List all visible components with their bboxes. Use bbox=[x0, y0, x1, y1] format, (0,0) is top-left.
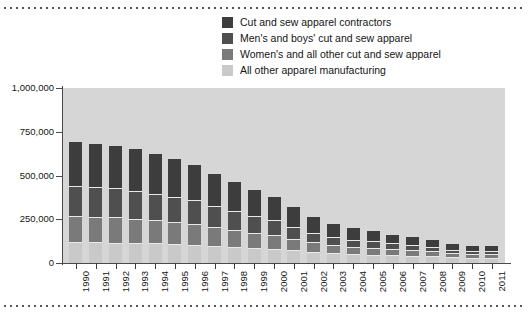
y-axis-tick-label: 250,000 bbox=[0, 213, 54, 224]
bar-segment bbox=[367, 255, 380, 263]
bar-segment bbox=[69, 242, 82, 263]
x-axis-tick-label: 2005 bbox=[377, 271, 388, 292]
bar-segment bbox=[69, 142, 82, 186]
legend-item: Cut and sew apparel contractors bbox=[222, 15, 441, 29]
x-axis-tick bbox=[76, 263, 77, 269]
bar-column bbox=[403, 88, 423, 263]
bar-segment bbox=[129, 219, 142, 244]
bar-segment bbox=[287, 207, 300, 226]
x-axis-tick bbox=[254, 263, 255, 269]
bar-column bbox=[165, 88, 185, 263]
legend-item-label: Men's and boys' cut and sew apparel bbox=[240, 32, 412, 44]
bar-segment bbox=[149, 194, 162, 221]
bar-column bbox=[86, 88, 106, 263]
bar-column bbox=[423, 88, 443, 263]
stacked-bar bbox=[188, 165, 201, 263]
y-axis-tick bbox=[56, 88, 63, 89]
x-axis-tick-label: 2009 bbox=[456, 271, 467, 292]
x-axis-tick bbox=[393, 263, 394, 269]
bar-segment bbox=[188, 200, 201, 224]
x-axis-labels: 1990199119921993199419951996199719981999… bbox=[0, 271, 529, 311]
stacked-bar bbox=[406, 237, 419, 263]
x-axis-tick bbox=[274, 263, 275, 269]
y-axis-tick-label: 1,000,000 bbox=[0, 82, 54, 93]
bar-segment bbox=[109, 188, 122, 217]
bar-segment bbox=[327, 245, 340, 253]
bar-group bbox=[63, 88, 505, 263]
bar-segment bbox=[406, 237, 419, 245]
x-axis-tick-label: 1993 bbox=[139, 271, 150, 292]
x-axis-tick bbox=[195, 263, 196, 269]
bar-segment bbox=[268, 220, 281, 235]
bar-segment bbox=[149, 154, 162, 194]
stacked-bar bbox=[367, 231, 380, 263]
x-axis-tick bbox=[472, 263, 473, 269]
bar-segment bbox=[188, 245, 201, 263]
bar-segment bbox=[208, 206, 221, 227]
bar-column bbox=[383, 88, 403, 263]
x-axis-tick-label: 2007 bbox=[417, 271, 428, 292]
bar-segment bbox=[327, 237, 340, 245]
bar-segment bbox=[208, 246, 221, 263]
bar-column bbox=[205, 88, 225, 263]
bar-segment bbox=[268, 197, 281, 220]
bar-segment bbox=[129, 243, 142, 263]
x-axis-tick-label: 1990 bbox=[80, 271, 91, 292]
bar-segment bbox=[248, 216, 261, 233]
bar-segment bbox=[149, 220, 162, 243]
stacked-bar bbox=[307, 217, 320, 263]
bar-column bbox=[482, 88, 502, 263]
x-axis-tick bbox=[96, 263, 97, 269]
bar-column bbox=[284, 88, 304, 263]
stacked-bar bbox=[69, 142, 82, 263]
bar-segment bbox=[109, 217, 122, 242]
x-axis-tick-label: 2004 bbox=[357, 271, 368, 292]
stacked-bar bbox=[287, 207, 300, 263]
bar-segment bbox=[307, 217, 320, 233]
y-axis-tick bbox=[56, 132, 63, 133]
legend-swatch-icon bbox=[222, 17, 233, 28]
stacked-bar bbox=[466, 246, 479, 263]
bar-segment bbox=[69, 186, 82, 216]
bar-segment bbox=[347, 240, 360, 247]
bar-segment bbox=[347, 254, 360, 263]
bar-segment bbox=[347, 228, 360, 239]
y-axis-tick-label: 750,000 bbox=[0, 126, 54, 137]
stacked-bar bbox=[426, 240, 439, 263]
bar-segment bbox=[149, 243, 162, 263]
x-axis-tick-label: 2001 bbox=[298, 271, 309, 292]
bar-segment bbox=[406, 256, 419, 263]
x-axis-tick-label: 1992 bbox=[120, 271, 131, 292]
bar-segment bbox=[109, 243, 122, 263]
y-axis-tick bbox=[56, 176, 63, 177]
legend-item: Women's and all other cut and sew appare… bbox=[222, 47, 441, 61]
bar-column bbox=[264, 88, 284, 263]
x-axis-tick-label: 1998 bbox=[238, 271, 249, 292]
bar-segment bbox=[168, 159, 181, 197]
bar-segment bbox=[287, 227, 300, 239]
bar-segment bbox=[69, 216, 82, 242]
bar-segment bbox=[168, 197, 181, 222]
bar-segment bbox=[347, 247, 360, 255]
x-axis-tick-label: 1999 bbox=[258, 271, 269, 292]
bar-segment bbox=[188, 165, 201, 200]
bar-segment bbox=[426, 240, 439, 247]
stacked-bar bbox=[228, 182, 241, 263]
x-axis-tick-label: 1995 bbox=[179, 271, 190, 292]
stacked-bar bbox=[248, 190, 261, 263]
bar-segment bbox=[89, 187, 102, 216]
bar-column bbox=[145, 88, 165, 263]
bar-segment bbox=[287, 239, 300, 251]
bar-column bbox=[462, 88, 482, 263]
bar-column bbox=[244, 88, 264, 263]
bar-segment bbox=[268, 235, 281, 249]
bar-segment bbox=[129, 149, 142, 190]
stacked-bar bbox=[485, 246, 498, 263]
bar-segment bbox=[386, 235, 399, 244]
bar-segment bbox=[168, 244, 181, 263]
x-axis-tick-label: 1991 bbox=[100, 271, 111, 292]
bar-segment bbox=[327, 224, 340, 237]
bar-column bbox=[125, 88, 145, 263]
x-axis-tick bbox=[215, 263, 216, 269]
bar-segment bbox=[307, 233, 320, 243]
